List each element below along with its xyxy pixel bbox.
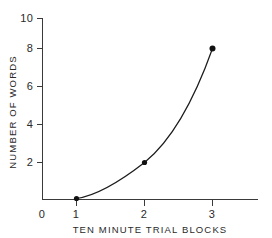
y-tick-label: 8 — [27, 42, 33, 54]
y-axis-title: NUMBER OF WORDS — [7, 55, 18, 168]
x-tick-label: 0 — [39, 208, 45, 220]
y-tick-label: 10 — [20, 12, 33, 24]
x-axis-title: TEN MINUTE TRIAL BLOCKS — [73, 224, 228, 235]
y-tick-label: 4 — [27, 118, 33, 130]
data-point — [74, 196, 79, 201]
chart-figure: 10 8 6 4 2 0 1 2 3 NUMBER OF WORDS — [0, 0, 272, 238]
y-tick-label: 6 — [27, 80, 33, 92]
chart-background — [0, 0, 272, 238]
data-point — [210, 46, 216, 52]
x-tick-label: 1 — [73, 208, 79, 220]
data-point — [142, 160, 147, 165]
x-tick-label: 3 — [209, 208, 215, 220]
y-tick-label: 2 — [27, 156, 33, 168]
line-chart-plot: 10 8 6 4 2 0 1 2 3 NUMBER OF WORDS — [0, 0, 272, 238]
x-tick-label: 2 — [141, 208, 147, 220]
